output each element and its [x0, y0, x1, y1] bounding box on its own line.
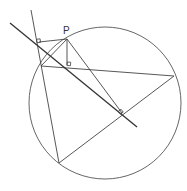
circumcircle — [29, 27, 181, 179]
side-CA-extended — [31, 10, 59, 163]
right-angle-marker-AB — [67, 62, 71, 66]
simson-line-diagram: P — [0, 0, 187, 191]
perpendicular-to-CA — [39, 39, 67, 42]
side-BC — [59, 76, 174, 163]
right-angle-marker-CA — [37, 39, 41, 43]
side-AB — [41, 66, 174, 76]
label-P: P — [63, 25, 70, 36]
segment-PA — [41, 39, 67, 66]
